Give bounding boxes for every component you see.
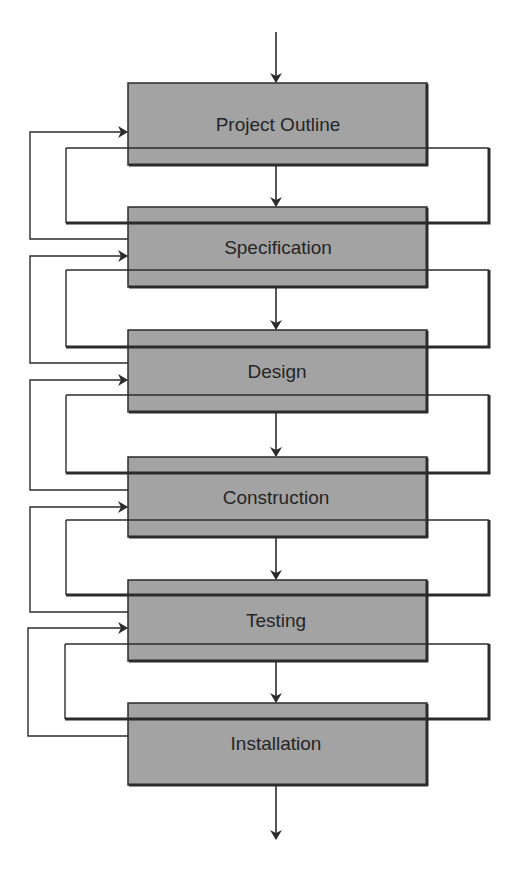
stage-label: Construction	[223, 487, 330, 508]
stage-boxes: Project Outline Specification Design Con…	[128, 83, 428, 786]
waterfall-diagram: Project Outline Specification Design Con…	[0, 0, 510, 872]
stage-box-project-outline: Project Outline	[128, 83, 428, 166]
stage-label: Design	[247, 361, 306, 382]
stage-box-design: Design	[128, 330, 428, 413]
stage-box-construction: Construction	[128, 457, 428, 538]
stage-label: Project Outline	[216, 114, 341, 135]
stage-label: Specification	[224, 237, 332, 258]
stage-box-testing: Testing	[128, 580, 428, 662]
stage-label: Installation	[231, 733, 322, 754]
stage-box-installation: Installation	[128, 703, 428, 786]
stage-box-specification: Specification	[128, 207, 428, 288]
stage-label: Testing	[246, 610, 306, 631]
